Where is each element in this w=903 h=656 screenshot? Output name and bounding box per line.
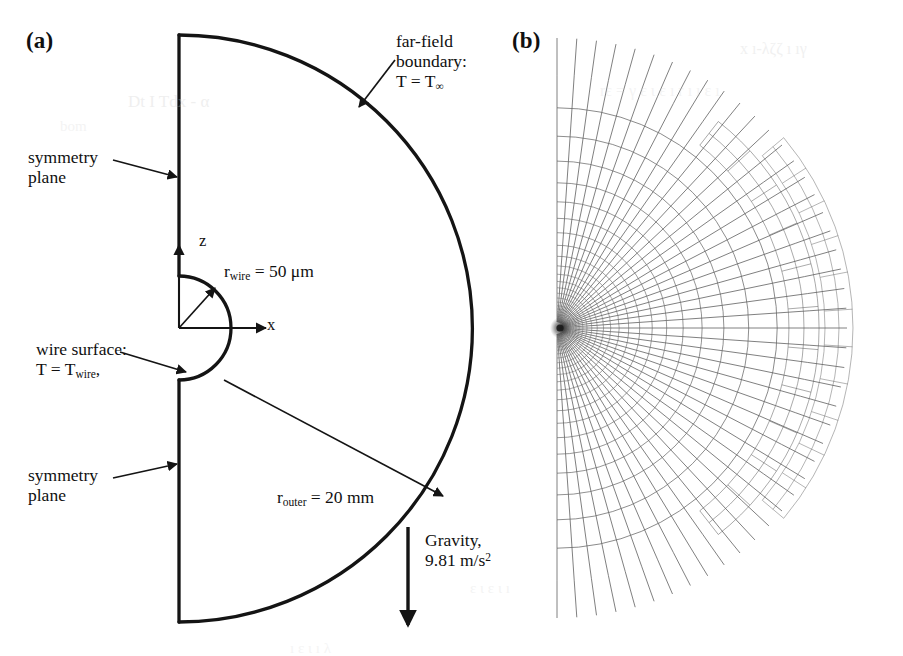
far-field-boundary-label: far-field boundary: T = T∞	[396, 32, 467, 93]
symmetry-bottom-arrow	[113, 464, 177, 478]
panel-label-b: (b)	[512, 28, 541, 54]
r-wire-sub: wire	[230, 270, 250, 282]
axis-label-z: z	[199, 232, 206, 251]
wire-temp-prefix: T = T	[36, 359, 75, 379]
axis-label-x: x	[267, 316, 275, 335]
gravity-label: Gravity, 9.81 m/s2	[425, 531, 491, 571]
gravity-line1: Gravity,	[425, 531, 491, 551]
wire-surface-line2: T = Twire,	[36, 360, 127, 381]
wire-surface-line1: wire surface:	[36, 340, 127, 360]
r-outer-label: router = 20 mm	[277, 488, 374, 509]
r-wire-label: rwire = 50 μm	[224, 262, 314, 283]
far-field-line3: T = T∞	[396, 72, 467, 93]
r-outer-value: = 20 mm	[306, 487, 374, 507]
r-wire-value: = 50 μm	[250, 261, 314, 281]
symmetry-bottom-line1: symmetry	[28, 466, 98, 486]
r-outer-arrow	[224, 380, 443, 496]
r-wire-arrow	[179, 288, 215, 328]
gravity-value: 9.81 m/s	[425, 550, 485, 570]
wire-temp-sub: wire	[75, 367, 95, 379]
wire-temp-suffix: ,	[96, 359, 100, 379]
far-field-temp-sub: ∞	[435, 79, 443, 91]
gravity-exponent: 2	[485, 551, 491, 563]
annotation-arrows	[113, 60, 443, 625]
symmetry-bottom-line2: plane	[28, 486, 98, 506]
mesh-lines	[550, 38, 853, 618]
figure-container: Dt I Tdx - αbomx ı-λζζ ı ıγrε = γ ε ι ε …	[0, 0, 903, 656]
symmetry-plane-bottom-label: symmetry plane	[28, 466, 98, 506]
symmetry-top-line1: symmetry	[28, 148, 98, 168]
r-outer-sub: outer	[283, 496, 307, 508]
far-field-temp-prefix: T = T	[396, 71, 435, 91]
symmetry-plane-top-label: symmetry plane	[28, 148, 98, 188]
symmetry-top-arrow	[113, 160, 177, 177]
gravity-line2: 9.81 m/s2	[425, 551, 491, 571]
wire-surface-label: wire surface: T = Twire,	[36, 340, 127, 381]
wire-surface-arrow	[120, 352, 186, 372]
symmetry-top-line2: plane	[28, 168, 98, 188]
far-field-arrow	[359, 60, 395, 107]
panel-label-a: (a)	[26, 28, 53, 54]
far-field-line1: far-field	[396, 32, 467, 52]
far-field-line2: boundary:	[396, 52, 467, 72]
